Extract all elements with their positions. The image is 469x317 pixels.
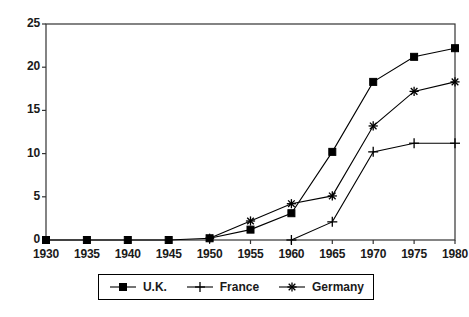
y-axis-tick-label: 0 xyxy=(4,232,40,246)
plot-area xyxy=(0,0,469,317)
line-chart: U.K.FranceGermany 0510152025193019351940… xyxy=(0,0,469,317)
legend-item-france[interactable]: France xyxy=(185,280,259,294)
y-axis-tick-label: 5 xyxy=(4,189,40,203)
legend-marker-filled-square-icon xyxy=(108,280,138,294)
marker-filled-square xyxy=(43,237,50,244)
x-axis-tick-label: 1980 xyxy=(428,247,469,261)
marker-asterisk xyxy=(246,216,255,225)
legend-item-germany[interactable]: Germany xyxy=(277,280,364,294)
series-line xyxy=(46,48,455,240)
marker-asterisk xyxy=(410,87,419,96)
marker-plus xyxy=(327,217,337,227)
series-line xyxy=(210,82,455,238)
marker-filled-square xyxy=(124,237,131,244)
marker-filled-square xyxy=(288,210,295,217)
y-axis-tick-label: 15 xyxy=(4,102,40,116)
marker-plus xyxy=(450,138,460,148)
marker-asterisk xyxy=(287,199,296,208)
marker-filled-square xyxy=(411,53,418,60)
series-france xyxy=(286,138,460,245)
series-u-k xyxy=(43,45,459,244)
legend-item-label: France xyxy=(220,280,259,294)
marker-filled-square xyxy=(119,284,126,291)
marker-asterisk xyxy=(369,121,378,130)
y-axis-tick-label: 10 xyxy=(4,146,40,160)
legend-marker-plus-icon xyxy=(185,280,215,294)
legend-item-u-k[interactable]: U.K. xyxy=(108,280,167,294)
marker-filled-square xyxy=(247,226,254,233)
y-axis-tick-label: 20 xyxy=(4,59,40,73)
marker-asterisk xyxy=(287,282,296,291)
marker-filled-square xyxy=(83,237,90,244)
marker-filled-square xyxy=(329,148,336,155)
marker-filled-square xyxy=(165,237,172,244)
marker-plus xyxy=(286,235,296,245)
marker-plus xyxy=(409,138,419,148)
marker-filled-square xyxy=(370,78,377,85)
axis-frame xyxy=(46,24,455,240)
marker-plus xyxy=(195,282,205,292)
marker-asterisk xyxy=(328,191,337,200)
marker-plus xyxy=(368,147,378,157)
y-axis-tick-label: 25 xyxy=(4,16,40,30)
legend-item-label: U.K. xyxy=(143,280,167,294)
series-line xyxy=(291,143,455,240)
chart-legend: U.K.FranceGermany xyxy=(98,274,374,300)
legend-marker-asterisk-icon xyxy=(277,280,307,294)
marker-asterisk xyxy=(450,77,459,86)
legend-item-label: Germany xyxy=(312,280,364,294)
marker-filled-square xyxy=(452,45,459,52)
marker-asterisk xyxy=(205,234,214,243)
